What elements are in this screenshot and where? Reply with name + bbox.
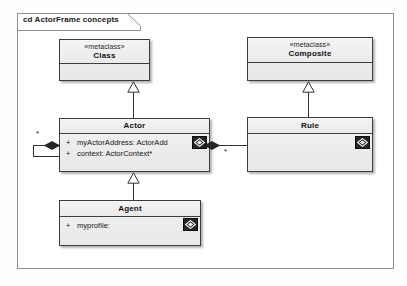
class-header-agent: Agent [60,201,200,217]
generalization-actor-class-line [133,92,134,118]
class-name-actor: Actor [62,121,207,130]
class-header-rule: Rule [248,118,372,134]
class-box-class[interactable]: «metaclass» Class [59,39,150,81]
class-box-agent[interactable]: Agent +myprofile: [59,200,201,246]
class-attributes-composite [248,63,372,81]
attribute-text: context: ActorContext* [77,149,152,158]
class-name-agent: Agent [62,204,198,213]
composition-actor-self-bottom [33,156,60,157]
class-header-actor: Actor [60,119,209,134]
class-name-composite: Composite [250,49,370,58]
generalization-arrow-icon [127,81,140,92]
generalization-arrow-icon [127,172,140,183]
class-box-actor[interactable]: Actor +myActorAddress: ActorAdd +context… [59,118,210,172]
class-header-class: «metaclass» Class [60,40,149,64]
class-name-rule: Rule [250,121,370,130]
composition-diamond-icon [44,141,58,150]
class-box-composite[interactable]: «metaclass» Composite [247,37,373,81]
diamond-badge-icon[interactable] [355,136,370,149]
multiplicity-actor-self: * [36,130,39,138]
class-header-composite: «metaclass» Composite [248,38,372,63]
attribute-visibility: + [66,220,77,231]
attribute-row: +context: ActorContext* [66,148,207,159]
attribute-text: myActorAddress: ActorAdd [77,138,168,147]
generalization-agent-actor-line [133,183,134,200]
frame-title: cd ActorFrame concepts [23,15,119,24]
attribute-visibility: + [66,137,77,148]
diagram-canvas: cd ActorFrame concepts «metaclass» Class… [0,0,407,286]
class-box-rule[interactable]: Rule [247,117,373,172]
composition-diamond-icon [204,141,218,150]
class-attributes-rule [248,134,372,172]
composition-actor-self-left [33,145,34,156]
attribute-text: myprofile: [77,221,110,230]
class-attributes-actor: +myActorAddress: ActorAdd +context: Acto… [60,134,209,172]
generalization-arrow-icon [302,81,315,92]
class-stereotype-composite: «metaclass» [250,41,370,49]
class-attributes-class [60,64,149,81]
attribute-row: +myActorAddress: ActorAdd [66,137,207,148]
attribute-visibility: + [66,148,77,159]
diamond-badge-icon[interactable] [183,218,198,231]
attribute-row: +myprofile: [66,220,198,231]
class-stereotype-class: «metaclass» [62,43,147,51]
generalization-rule-composite-line [308,92,309,117]
class-attributes-agent: +myprofile: [60,217,200,246]
multiplicity-actor-rule: * [224,148,227,156]
class-name-class: Class [62,51,147,60]
